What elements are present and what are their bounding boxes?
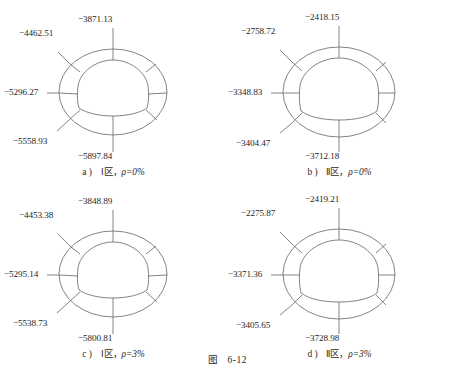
value-label-upper-left: −4453.38	[19, 210, 53, 220]
divider-upper-right	[376, 62, 386, 71]
leader-upper-left	[58, 234, 70, 246]
caption-zone-b: Ⅱ区，	[326, 167, 348, 177]
value-label-upper-left: −2758.72	[241, 26, 275, 36]
value-label-top: −2419.21	[305, 194, 339, 204]
leader-upper-left	[280, 232, 292, 244]
divider-left	[59, 275, 78, 276]
caption-index-b: b )	[307, 167, 317, 177]
value-label-left: −3348.83	[228, 87, 262, 97]
divider-upper-right	[376, 244, 386, 253]
value-label-upper-left: −4462.51	[19, 28, 53, 38]
value-label-left: −5295.14	[4, 269, 38, 279]
value-label-left: −3371.36	[228, 269, 262, 279]
divider-right	[148, 275, 167, 276]
divider-lower-right	[146, 110, 157, 120]
panel-caption-b: b ) Ⅱ区，ρ=0%	[226, 164, 453, 178]
divider-right	[148, 93, 167, 94]
divider-upper-left	[292, 62, 302, 71]
inner-tunnel-profile	[77, 242, 148, 298]
leader-upper-left	[58, 52, 70, 64]
leader-lower-left	[57, 120, 69, 131]
divider-upper-left	[70, 246, 80, 254]
divider-lower-left	[69, 292, 80, 302]
value-label-bottom: −3712.18	[305, 151, 339, 161]
divider-upper-right	[146, 246, 156, 254]
inner-tunnel-profile	[299, 240, 378, 302]
inner-tunnel-profile	[299, 58, 378, 120]
figure-container: −3871.13 −4462.51 −5296.27 −5558.93 −589…	[0, 0, 455, 372]
value-label-lower-left: −5558.93	[13, 136, 47, 146]
panel-b: −2418.15 −2758.72 −3348.83 −3404.47 −371…	[226, 0, 453, 186]
caption-index-a: a )	[82, 167, 92, 177]
panel-a: −3871.13 −4462.51 −5296.27 −5558.93 −589…	[0, 0, 227, 186]
divider-lower-right	[146, 292, 157, 302]
value-label-bottom: −5800.81	[78, 333, 112, 343]
divider-upper-right	[146, 64, 156, 72]
figure-number-value: 6-12	[227, 354, 247, 365]
divider-left	[59, 93, 78, 94]
value-label-top: −3871.13	[78, 14, 112, 24]
panel-caption-a: a ) Ⅰ区，ρ=0%	[0, 164, 227, 178]
value-label-lower-left: −3404.47	[236, 138, 270, 148]
value-label-lower-left: −3405.65	[236, 320, 270, 330]
value-label-upper-left: −2275.87	[241, 208, 275, 218]
panel-d: −2419.21 −2275.87 −3371.36 −3405.65 −372…	[226, 182, 453, 368]
inner-tunnel-profile	[77, 60, 148, 116]
value-label-left: −5296.27	[4, 87, 38, 97]
divider-lower-left	[69, 110, 80, 120]
divider-upper-left	[70, 64, 80, 72]
leader-upper-left	[280, 50, 292, 62]
leader-lower-left	[280, 305, 292, 315]
value-label-lower-left: −5538.73	[13, 318, 47, 328]
value-label-bottom: −5897.84	[78, 151, 112, 161]
value-label-bottom: −3728.98	[305, 333, 339, 343]
caption-rho-b: ρ=0%	[348, 167, 371, 177]
caption-rho-a: ρ=0%	[122, 167, 145, 177]
figure-number-prefix: 图	[208, 354, 219, 365]
value-label-top: −2418.15	[305, 12, 339, 22]
panel-c: −3848.89 −4453.38 −5295.14 −5538.73 −580…	[0, 182, 227, 368]
leader-lower-left	[57, 302, 69, 313]
caption-zone-a: Ⅰ区，	[101, 167, 122, 177]
divider-upper-left	[292, 244, 302, 253]
value-label-top: −3848.89	[78, 196, 112, 206]
leader-lower-left	[280, 123, 292, 133]
figure-number: 图6-12	[0, 352, 455, 366]
